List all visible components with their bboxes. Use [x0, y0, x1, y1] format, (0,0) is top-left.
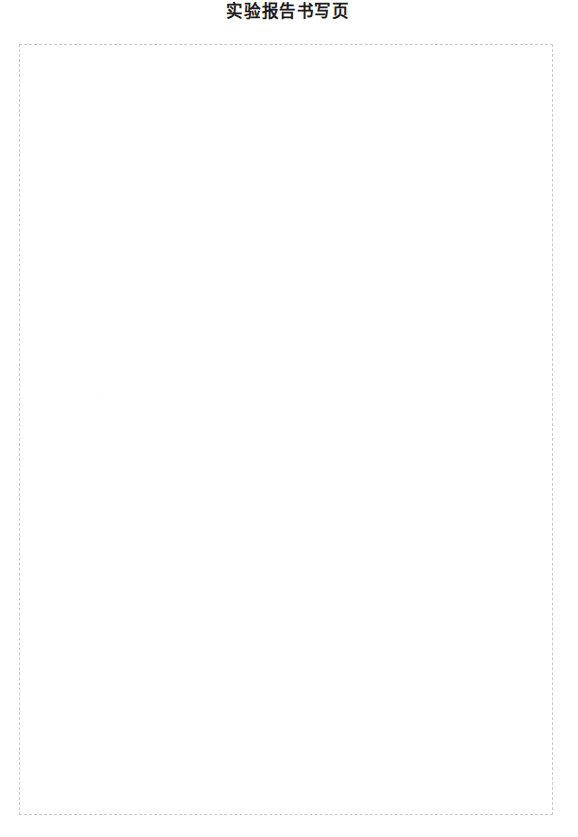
writing-area-content[interactable]	[20, 45, 552, 814]
document-page: 实验报告书写页	[0, 0, 578, 837]
page-title: 实验报告书写页	[226, 1, 349, 21]
writing-area-frame	[19, 44, 553, 815]
document-header: 实验报告书写页	[0, 0, 578, 44]
